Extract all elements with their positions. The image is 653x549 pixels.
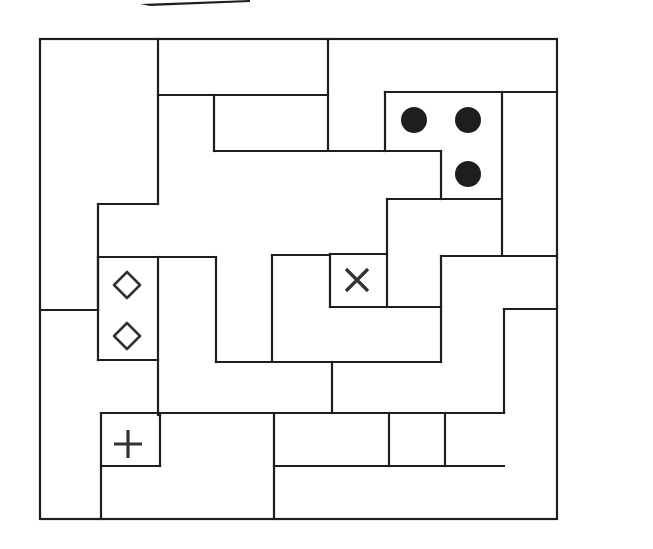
filled-dot-2-icon (455, 107, 481, 133)
puzzle-diagram (0, 0, 653, 549)
diamond-2-icon (114, 323, 140, 349)
diamond-1-icon (114, 272, 140, 298)
x-mark-icon (346, 269, 368, 291)
outer-border (40, 39, 557, 519)
corner-mark (140, 0, 250, 6)
plus-mark-icon (114, 430, 142, 458)
filled-dot-1-icon (401, 107, 427, 133)
cell-symbols (114, 107, 481, 458)
region-walls (40, 39, 557, 519)
filled-dot-3-icon (455, 161, 481, 187)
